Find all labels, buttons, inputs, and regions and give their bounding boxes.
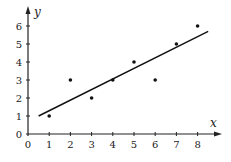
y-tick-label: 2 bbox=[16, 93, 22, 104]
y-axis-label: y bbox=[33, 5, 41, 19]
x-tick-label: 3 bbox=[88, 139, 94, 150]
x-tick-label: 4 bbox=[110, 139, 116, 150]
y-tick-label: 6 bbox=[16, 21, 22, 32]
y-axis-arrow-icon bbox=[26, 6, 31, 14]
scatter-chart: x y 012345678 0123456 bbox=[0, 0, 231, 162]
data-point bbox=[69, 78, 73, 82]
data-point bbox=[132, 60, 136, 64]
data-point bbox=[90, 96, 94, 100]
data-point bbox=[47, 114, 51, 118]
best-fit-line bbox=[39, 31, 209, 116]
y-tick-label: 1 bbox=[16, 111, 22, 122]
x-tick-label: 6 bbox=[152, 139, 158, 150]
x-tick-label: 1 bbox=[46, 139, 52, 150]
x-tick-label: 0 bbox=[25, 139, 31, 150]
axes: x y bbox=[26, 5, 223, 137]
y-tick-label: 0 bbox=[16, 129, 22, 140]
x-tick-label: 5 bbox=[131, 139, 137, 150]
data-point bbox=[153, 78, 157, 82]
x-ticks: 012345678 bbox=[25, 132, 201, 150]
y-tick-label: 3 bbox=[16, 75, 22, 86]
y-tick-label: 4 bbox=[16, 57, 22, 68]
data-series bbox=[39, 24, 209, 118]
y-tick-label: 5 bbox=[16, 39, 22, 50]
x-tick-label: 7 bbox=[173, 139, 179, 150]
data-point bbox=[175, 42, 179, 46]
x-axis-label: x bbox=[210, 116, 217, 130]
data-point bbox=[196, 24, 200, 28]
x-tick-label: 8 bbox=[194, 139, 200, 150]
x-tick-label: 2 bbox=[67, 139, 73, 150]
x-axis-arrow-icon bbox=[214, 132, 222, 137]
